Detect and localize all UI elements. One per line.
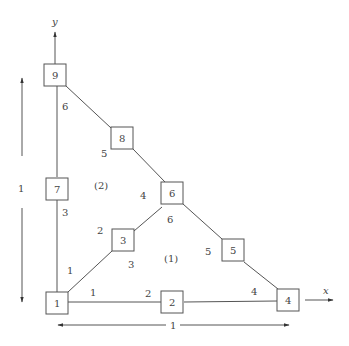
node-label: 3 xyxy=(120,235,126,246)
node-label: 4 xyxy=(285,295,291,306)
element-2-local-node-2: 2 xyxy=(97,225,103,236)
node-label: 1 xyxy=(54,298,60,309)
edge-3-6 xyxy=(134,207,162,231)
horizontal-dimension-label: 1 xyxy=(170,320,176,331)
element-label-1: (1) xyxy=(164,253,178,264)
element-1-local-node-5: 5 xyxy=(205,246,211,257)
element-1-local-node-3: 3 xyxy=(128,259,134,270)
node-2: 2 xyxy=(161,291,183,313)
node-4: 4 xyxy=(277,289,299,311)
y-axis-label: y xyxy=(51,16,58,27)
node-label: 9 xyxy=(52,70,58,81)
element-2-local-node-6: 6 xyxy=(62,101,68,112)
node-6: 6 xyxy=(161,182,183,204)
element-1-local-node-1: 1 xyxy=(90,287,96,298)
node-3: 3 xyxy=(112,229,134,251)
element-1-local-node-4: 4 xyxy=(251,286,257,297)
vertical-dimension-label: 1 xyxy=(18,183,24,194)
edge-9-8 xyxy=(66,86,111,128)
element-2-local-node-4: 4 xyxy=(140,190,146,201)
element-2-local-node-1: 1 xyxy=(67,265,73,276)
element-2-local-node-5: 5 xyxy=(101,148,107,159)
node-label: 7 xyxy=(54,184,60,195)
node-label: 2 xyxy=(169,297,175,308)
element-2-local-node-3: 3 xyxy=(62,207,68,218)
element-1-local-node-6: 6 xyxy=(167,214,173,225)
node-label: 5 xyxy=(230,245,236,256)
edge-8-6 xyxy=(133,149,165,182)
edge-2-4 xyxy=(184,301,277,302)
x-axis-label: x xyxy=(323,285,329,296)
finite-element-diagram: y x 1 1 1 2 3 4 5 6 7 xyxy=(0,0,349,346)
element-1-local-node-2: 2 xyxy=(145,288,151,299)
node-7: 7 xyxy=(46,178,68,200)
node-label: 6 xyxy=(169,188,175,199)
node-1: 1 xyxy=(46,292,68,314)
edge-6-5 xyxy=(183,204,222,239)
node-8: 8 xyxy=(111,127,133,149)
node-label: 8 xyxy=(119,133,125,144)
node-9: 9 xyxy=(44,64,66,86)
edge-5-4 xyxy=(244,262,278,289)
element-label-2: (2) xyxy=(94,180,108,191)
edge-1-3 xyxy=(68,251,112,292)
node-5: 5 xyxy=(222,239,244,261)
